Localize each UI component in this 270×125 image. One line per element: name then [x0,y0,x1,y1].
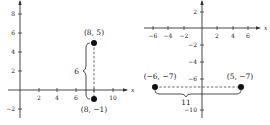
left-y-arrow-icon [18,0,21,5]
right-xtick-6: 6 [246,32,250,39]
left-ytick-8: 8 [11,10,15,17]
right-xtick-4: 4 [231,32,235,39]
left-xtick-4: 4 [55,94,59,101]
point-8-neg1 [91,96,97,102]
right-ytick-neg2: −2 [188,41,197,48]
point-5-neg7 [238,84,244,90]
point-neg6-neg7 [152,84,158,90]
point-8-5-label: (8, 5) [84,28,104,37]
left-xtick-2: 2 [37,94,41,101]
right-xtick-2: 2 [215,32,219,39]
left-distance-label: 6 [74,67,79,76]
left-x-axis-label: x [131,86,135,93]
point-neg6-neg7-label: (−6, −7) [144,72,177,81]
right-xtick-neg4: −4 [164,32,173,39]
left-ytick-4: 4 [11,48,15,55]
point-8-neg1-label: (8, −1) [81,105,108,114]
right-y-arrow-icon [200,0,203,5]
right-x-axis-label: x [264,24,268,31]
left-ytick-neg2: −2 [6,105,15,112]
point-8-5 [91,40,97,46]
left-chart: x 2 4 6 10 8 6 4 2 −2 6 (8, 5) (8, −1) [6,0,135,118]
right-distance-label: 11 [181,98,191,107]
figure: x 2 4 6 10 8 6 4 2 −2 6 (8, 5) (8, −1) [0,0,270,125]
right-ytick-neg6: −6 [188,75,197,82]
right-xtick-neg2: −2 [180,32,189,39]
point-5-neg7-label: (5, −7) [227,72,254,81]
left-ytick-6: 6 [11,29,15,36]
left-xtick-10: 10 [109,94,117,101]
left-xtick-6: 6 [74,94,78,101]
right-chart: x −6 −4 −2 2 4 6 2 −2 −4 −6 −10 11 (−6, … [144,0,268,118]
left-ytick-2: 2 [11,67,15,74]
right-xtick-neg6: −6 [149,32,158,39]
right-x-arrow-icon [256,26,261,29]
left-brace [83,43,90,99]
left-x-arrow-icon [123,88,128,91]
right-ytick-2: 2 [193,8,197,15]
right-ytick-neg4: −4 [188,58,197,65]
right-brace [155,90,241,97]
right-ytick-neg10: −10 [184,106,197,113]
